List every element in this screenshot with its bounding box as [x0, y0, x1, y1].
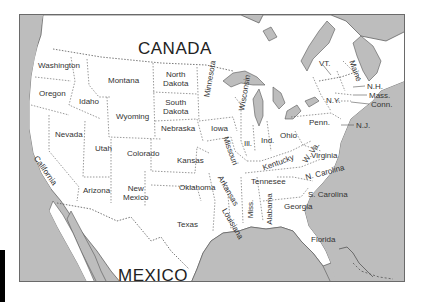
state-wyoming[interactable]: Wyoming — [116, 113, 149, 121]
state-new-hampshire[interactable]: N.H. — [367, 83, 383, 91]
state-south-dakota[interactable]: SouthDakota — [163, 99, 188, 117]
state-connecticut[interactable]: Conn. — [371, 101, 392, 109]
state-nebraska[interactable]: Nebraska — [161, 125, 195, 133]
state-texas[interactable]: Texas — [177, 221, 198, 229]
state-tennessee[interactable]: Tennesee — [251, 178, 286, 186]
state-new-jersey[interactable]: N.J. — [356, 122, 370, 130]
state-nevada[interactable]: Nevada — [55, 131, 83, 139]
us-map: CANADA MEXICO Washington Oregon Idaho Mo… — [19, 14, 405, 282]
state-colorado[interactable]: Colorado — [127, 150, 159, 158]
state-ohio[interactable]: Ohio — [280, 132, 297, 140]
label-mexico: MEXICO — [118, 267, 188, 282]
state-north-dakota[interactable]: NorthDakota — [163, 71, 188, 89]
state-montana[interactable]: Montana — [108, 77, 139, 85]
state-mississippi[interactable]: Miss. — [247, 200, 255, 219]
state-washington[interactable]: Washington — [38, 62, 80, 70]
state-virginia[interactable]: Virginia — [311, 152, 338, 160]
state-georgia[interactable]: Georgia — [284, 203, 312, 211]
state-pennsylvania[interactable]: Penn. — [309, 119, 330, 127]
state-south-carolina[interactable]: S. Carolina — [308, 191, 348, 199]
state-iowa[interactable]: Iowa — [211, 125, 228, 133]
state-oklahoma[interactable]: Oklahoma — [179, 184, 215, 192]
black-bar — [0, 250, 5, 302]
state-idaho[interactable]: Idaho — [79, 98, 99, 106]
state-new-york[interactable]: N.Y. — [326, 97, 341, 105]
state-indiana[interactable]: Ind. — [261, 137, 274, 145]
state-arizona[interactable]: Arizona — [83, 187, 110, 195]
state-oregon[interactable]: Oregon — [39, 90, 66, 98]
state-utah[interactable]: Utah — [95, 145, 112, 153]
state-new-mexico[interactable]: NewMexico — [123, 185, 148, 203]
state-kansas[interactable]: Kansas — [177, 157, 204, 165]
state-illinois[interactable]: Ill. — [244, 140, 252, 148]
label-canada: CANADA — [138, 40, 212, 57]
state-massachusetts[interactable]: Mass. — [369, 92, 390, 100]
state-florida[interactable]: Florida — [311, 236, 335, 244]
state-alabama[interactable]: Alabama — [266, 193, 274, 225]
state-vermont[interactable]: VT. — [319, 60, 331, 68]
map-graphic — [20, 15, 405, 282]
